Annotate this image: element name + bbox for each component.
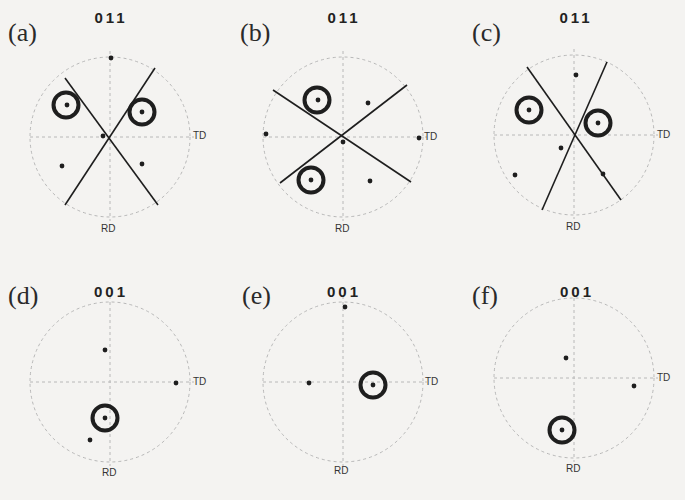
pole-dot-e-1	[307, 381, 312, 386]
panel-label-f: (f)	[472, 283, 498, 309]
pole-dot-e-2	[371, 383, 376, 388]
pole-dot-b-3	[417, 136, 422, 141]
pole-label-a: 011	[94, 10, 127, 25]
pole-dot-c-0	[574, 73, 579, 78]
pole-dot-a-0	[109, 56, 114, 61]
pole-figure-grid: (a) 011 TD RD (b) 011 TD RD (c) 011 TD R…	[0, 0, 685, 500]
td-label-a: TD	[193, 131, 206, 141]
pole-dot-b-0	[316, 98, 321, 103]
pole-dot-a-3	[101, 134, 106, 139]
pole-label-e: 001	[327, 284, 361, 299]
pole-dot-c-5	[601, 172, 606, 177]
pole-label-f: 001	[560, 284, 594, 299]
pole-dot-d-0	[103, 348, 108, 353]
pole-dot-b-2	[264, 132, 269, 137]
trace-line-a-0	[65, 78, 158, 205]
rd-label-b: RD	[335, 224, 349, 234]
pole-dot-c-1	[527, 108, 532, 113]
td-label-b: TD	[424, 132, 437, 142]
pole-dot-b-5	[309, 178, 314, 183]
pole-dot-c-3	[559, 146, 564, 151]
pole-dot-e-0	[343, 305, 348, 310]
pole-dot-a-2	[140, 110, 145, 115]
td-label-d: TD	[193, 377, 206, 387]
td-label-e: TD	[425, 377, 438, 387]
pole-label-d: 001	[94, 284, 128, 299]
pole-dot-f-0	[564, 356, 569, 361]
pole-dot-f-1	[632, 384, 637, 389]
rd-label-c: RD	[566, 222, 580, 232]
td-label-c: TD	[657, 130, 670, 140]
rd-label-e: RD	[334, 466, 348, 476]
td-label-f: TD	[657, 373, 670, 383]
rd-label-f: RD	[566, 464, 580, 474]
pole-dot-f-2	[560, 428, 565, 433]
pole-dot-c-2	[596, 121, 601, 126]
panel-label-d: (d)	[8, 283, 38, 309]
pole-dot-a-5	[140, 162, 145, 167]
pole-dot-c-4	[513, 173, 518, 178]
pole-label-c: 011	[559, 10, 592, 25]
panel-label-b: (b)	[240, 20, 270, 46]
pole-dot-d-1	[174, 381, 179, 386]
pole-dot-a-1	[65, 103, 70, 108]
panel-label-e: (e)	[242, 283, 271, 309]
pole-dot-b-6	[368, 179, 373, 184]
pole-dot-d-3	[88, 438, 93, 443]
pole-label-b: 011	[327, 10, 360, 25]
pole-dot-b-1	[366, 101, 371, 106]
pole-figures-canvas	[0, 0, 685, 500]
rd-label-a: RD	[101, 224, 115, 234]
pole-dot-b-4	[341, 140, 346, 145]
panel-label-c: (c)	[472, 20, 501, 46]
rd-label-d: RD	[102, 468, 116, 478]
pole-dot-a-4	[60, 164, 65, 169]
panel-label-a: (a)	[8, 20, 37, 46]
pole-dot-d-2	[103, 416, 108, 421]
